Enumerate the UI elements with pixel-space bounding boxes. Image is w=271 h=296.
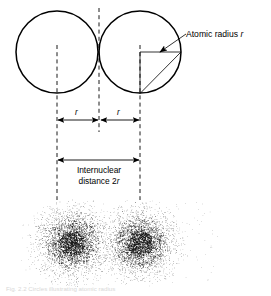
radius-left-label: r — [75, 108, 78, 119]
atomic-radius-symbol: r — [240, 29, 243, 39]
left-atom-circle — [16, 11, 98, 93]
internuclear-line-1: Internuclear — [77, 165, 121, 175]
internuclear-line-2: distance 2 — [79, 176, 117, 186]
atomic-radius-figure: Atomic radius r r r Internuclear distanc… — [0, 0, 271, 296]
internuclear-distance-label: Internuclear distance 2r — [59, 165, 139, 186]
atomic-radius-label: Atomic radius r — [186, 29, 243, 40]
electron-cloud-dots — [98, 202, 186, 284]
radius-right-label: r — [117, 108, 120, 119]
internuclear-symbol: r — [117, 176, 120, 186]
figure-caption: Fig. 2.2 Circles illustrating atomic rad… — [6, 285, 115, 292]
electron-cloud-halo-dots — [22, 200, 218, 286]
electron-cloud-dots — [29, 200, 117, 287]
electron-density-clouds — [22, 200, 218, 287]
atomic-radius-leader-line — [160, 34, 186, 52]
atomic-radius-text: Atomic radius — [186, 29, 240, 39]
figure-drawing — [0, 0, 271, 296]
